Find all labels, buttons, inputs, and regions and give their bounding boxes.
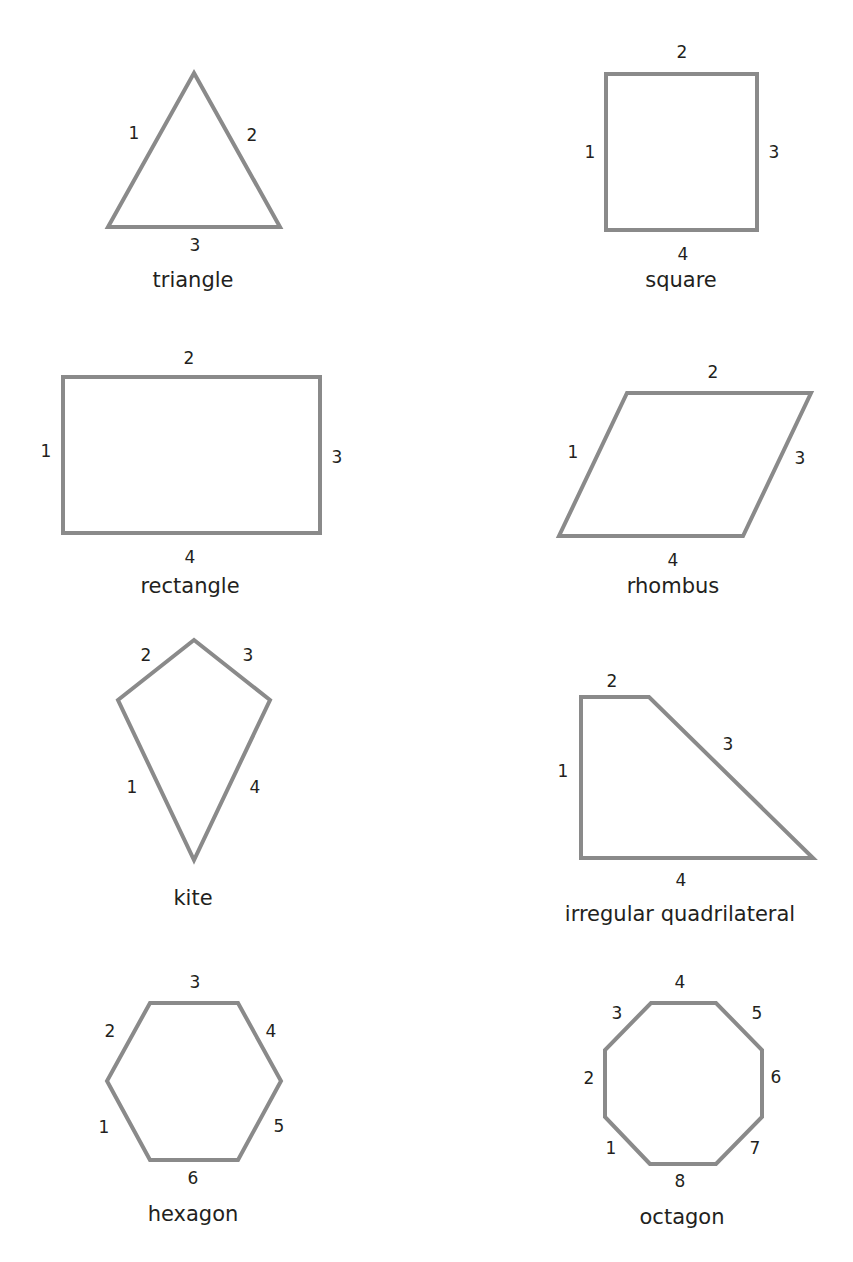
- side-label: 2: [584, 1068, 595, 1088]
- side-label: 2: [247, 125, 258, 145]
- shape-name-irregular-quadrilateral: irregular quadrilateral: [565, 902, 795, 926]
- shape-name-octagon: octagon: [640, 1205, 725, 1229]
- side-label: 2: [677, 42, 688, 62]
- side-label: 3: [723, 734, 734, 754]
- side-label: 6: [188, 1168, 199, 1188]
- side-label: 2: [141, 645, 152, 665]
- side-label: 3: [795, 448, 806, 468]
- side-label: 1: [129, 123, 140, 143]
- side-label: 3: [190, 972, 201, 992]
- side-label: 3: [332, 447, 343, 467]
- side-label: 7: [750, 1138, 761, 1158]
- side-label: 2: [184, 348, 195, 368]
- side-label: 3: [769, 142, 780, 162]
- side-label: 4: [185, 547, 196, 567]
- side-label: 1: [585, 142, 596, 162]
- shape-name-rectangle: rectangle: [140, 574, 239, 598]
- side-label: 5: [274, 1116, 285, 1136]
- side-label: 3: [612, 1003, 623, 1023]
- side-label: 4: [675, 972, 686, 992]
- side-label: 4: [676, 870, 687, 890]
- side-label: 3: [190, 235, 201, 255]
- shape-name-triangle: triangle: [153, 268, 234, 292]
- side-label: 1: [41, 441, 52, 461]
- shape-name-hexagon: hexagon: [148, 1202, 239, 1226]
- side-label: 1: [568, 442, 579, 462]
- side-label: 3: [243, 645, 254, 665]
- shape-name-rhombus: rhombus: [627, 574, 719, 598]
- side-label: 6: [771, 1067, 782, 1087]
- side-label: 4: [668, 550, 679, 570]
- side-label: 1: [558, 761, 569, 781]
- shape-name-square: square: [645, 268, 717, 292]
- side-label: 4: [250, 777, 261, 797]
- side-label: 5: [752, 1003, 763, 1023]
- side-label: 2: [105, 1021, 116, 1041]
- side-label: 4: [266, 1021, 277, 1041]
- side-label: 2: [708, 362, 719, 382]
- shape-name-kite: kite: [173, 886, 212, 910]
- polygon-diagram: 1 2 3 triangle 1 2 3 4 square 1 2 3 4 re…: [0, 0, 853, 1262]
- side-label: 4: [678, 244, 689, 264]
- side-label: 1: [99, 1117, 110, 1137]
- side-label: 2: [607, 671, 618, 691]
- side-label: 8: [675, 1171, 686, 1191]
- side-label: 1: [127, 777, 138, 797]
- side-label: 1: [606, 1138, 617, 1158]
